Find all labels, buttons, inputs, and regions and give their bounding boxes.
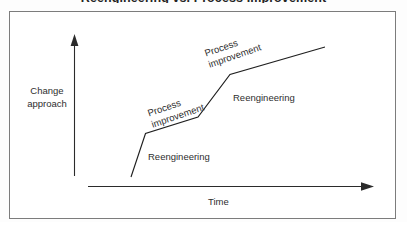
figure-screenshot: Reengineering vs. Process Improvement Ch… — [0, 0, 407, 231]
x-axis — [88, 182, 374, 191]
y-axis-label-line1: Change — [16, 84, 78, 97]
y-axis-label: Change approach — [16, 84, 78, 110]
scan-bottom-margin — [0, 222, 407, 231]
y-axis-label-line2: approach — [16, 97, 78, 110]
annotation-reengineering-2: Reengineering — [233, 92, 295, 104]
annotation-reengineering-1: Reengineering — [148, 151, 210, 163]
chart-plot-area — [0, 0, 407, 231]
x-axis-label: Time — [208, 196, 229, 208]
